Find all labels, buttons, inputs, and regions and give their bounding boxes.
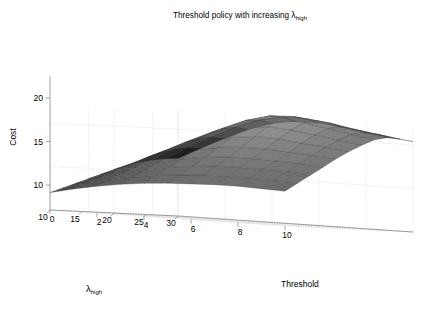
gridline-floor-lambda	[152, 215, 387, 231]
lambda-axis-tick-label: 30	[166, 218, 176, 228]
lambda-axis-tick-label: 20	[102, 215, 112, 225]
figure-canvas: 20151030252015100246810 Threshold policy…	[0, 0, 437, 310]
lambda-axis-tick-label: 15	[70, 214, 80, 224]
threshold-axis-tick-label: 0	[50, 214, 55, 224]
surface-mesh	[50, 116, 413, 193]
z-axis-tick-label: 10	[34, 180, 44, 190]
threshold-axis-tick-label: 10	[282, 230, 292, 240]
threshold-axis-tick-label: 4	[144, 220, 149, 230]
threshold-axis-tick-label: 2	[97, 217, 102, 227]
surface-plot: 20151030252015100246810	[0, 0, 437, 310]
gridline-floor-threshold	[285, 226, 413, 232]
z-axis-tick-label: 20	[34, 93, 44, 103]
threshold-axis-tick-label: 6	[191, 224, 196, 234]
lambda-axis-tick-label: 25	[134, 217, 144, 227]
z-axis-tick-label: 15	[34, 137, 44, 147]
gridline-floor-threshold	[238, 223, 366, 229]
threshold-axis-tick-label: 8	[238, 227, 243, 237]
lambda-axis-tick-label: 10	[38, 212, 48, 222]
threshold-axis-line	[178, 216, 413, 232]
